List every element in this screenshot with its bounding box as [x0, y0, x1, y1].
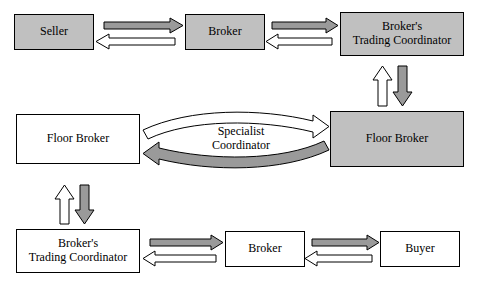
node-floor-broker-left-label: Floor Broker: [45, 132, 111, 146]
node-floor-broker-left[interactable]: Floor Broker: [16, 114, 140, 164]
arrow-coordinator-to-floor-broker: [393, 66, 412, 106]
node-seller-label: Seller: [38, 25, 70, 39]
center-label-specialist: Specialist Coordinator: [186, 125, 296, 153]
node-brokers-trading-coordinator-top[interactable]: Broker'sTrading Coordinator: [340, 12, 464, 56]
node-brokers-trading-coordinator-bottom[interactable]: Broker'sTrading Coordinator: [16, 229, 140, 273]
node-brokers-trading-coordinator-top-label: Broker'sTrading Coordinator: [351, 20, 454, 48]
center-label-line1: Specialist: [186, 125, 296, 139]
diagram-canvas: Seller Broker Broker'sTrading Coordinato…: [0, 0, 478, 289]
node-seller[interactable]: Seller: [14, 14, 94, 50]
node-floor-broker-right[interactable]: Floor Broker: [330, 111, 464, 167]
node-brokers-trading-coordinator-bottom-label: Broker'sTrading Coordinator: [27, 237, 130, 265]
arrow-coordinator-to-floor-left: [55, 185, 74, 224]
node-broker-top-label: Broker: [206, 25, 243, 39]
node-broker-top[interactable]: Broker: [185, 14, 265, 50]
node-broker-bottom[interactable]: Broker: [225, 231, 305, 267]
node-buyer-label: Buyer: [403, 242, 436, 256]
arrow-coordinator-to-broker-bottom: [150, 235, 223, 250]
node-buyer[interactable]: Buyer: [380, 231, 460, 267]
arrow-broker-to-seller: [96, 34, 175, 49]
arrow-broker-bottom-to-coordinator: [143, 251, 216, 266]
arrow-broker-to-coordinator: [272, 18, 338, 33]
arrow-buyer-to-broker-bottom: [305, 251, 372, 266]
arrow-floor-left-to-coordinator: [75, 185, 94, 224]
center-label-line2: Coordinator: [186, 139, 296, 153]
arrow-coordinator-to-broker: [266, 34, 332, 49]
node-floor-broker-right-label: Floor Broker: [364, 132, 430, 146]
node-broker-bottom-label: Broker: [246, 242, 283, 256]
arrow-broker-bottom-to-buyer: [312, 235, 379, 250]
arrow-floor-broker-to-coordinator: [373, 66, 392, 106]
arrow-seller-to-broker: [104, 18, 183, 33]
